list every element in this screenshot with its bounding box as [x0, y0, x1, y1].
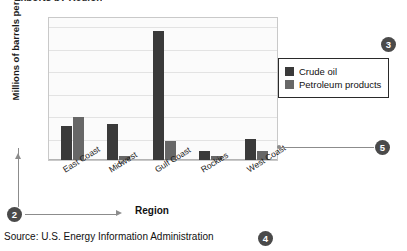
bar-crude-oil [245, 139, 256, 160]
callout-2: 2 [7, 207, 22, 222]
callout-2-leader-vertical [18, 148, 19, 214]
source-note: Source: U.S. Energy Information Administ… [4, 231, 214, 242]
legend-label: Petroleum products [299, 79, 381, 90]
bar-group [107, 18, 130, 160]
plot-area [48, 17, 278, 161]
legend-label: Crude oil [299, 66, 337, 77]
chart-legend: Crude oil Petroleum products [278, 58, 389, 98]
x-axis-title: Region [135, 205, 169, 216]
callout-3: 3 [381, 37, 396, 52]
bar-group [61, 18, 84, 160]
callout-5: 5 [375, 140, 390, 155]
bar-crude-oil [61, 126, 72, 160]
callout-4: 4 [258, 231, 273, 246]
bar-group [199, 18, 222, 160]
bar-group [153, 18, 176, 160]
bar-group [245, 18, 268, 160]
legend-item-crude-oil: Crude oil [285, 66, 381, 77]
legend-swatch-icon [285, 80, 294, 89]
bar-crude-oil [199, 151, 210, 160]
legend-swatch-icon [285, 67, 294, 76]
callout-2-leader-horizontal [25, 214, 117, 215]
callout-5-leader [279, 147, 377, 148]
bar-crude-oil [153, 31, 164, 160]
legend-item-petroleum-products: Petroleum products [285, 79, 381, 90]
bar-crude-oil [107, 124, 118, 160]
callout-2-arrowhead [116, 210, 122, 216]
figure-root: Exports by Region Millions of barrels pe… [0, 0, 407, 251]
callout-5-anchor-dot [277, 145, 281, 149]
